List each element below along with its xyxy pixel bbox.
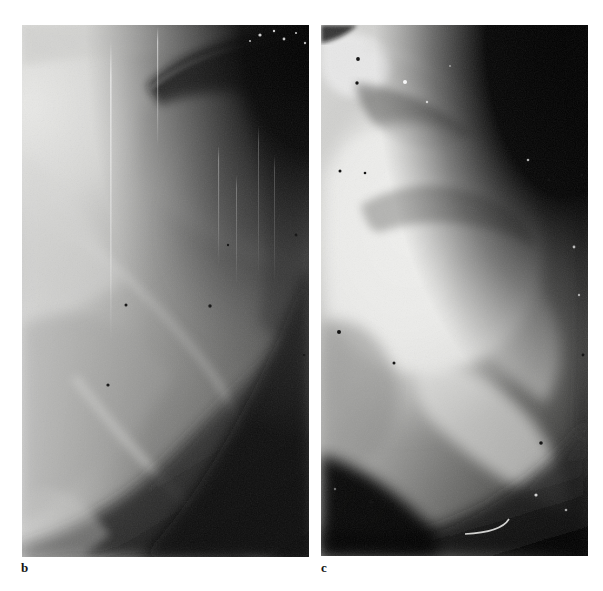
panel-label-c: c (321, 561, 327, 574)
radiograph-panel-c[interactable] (321, 25, 588, 556)
figure-root: b (0, 0, 603, 591)
radiograph-image-b (22, 25, 309, 557)
scratch-artifact (274, 155, 275, 285)
scratch-artifact (236, 175, 237, 285)
scratch-artifact (157, 27, 158, 147)
scratch-artifact (110, 41, 112, 341)
radiograph-panel-b[interactable] (22, 25, 309, 557)
scratch-artifact (258, 125, 259, 275)
radiograph-image-c (321, 25, 588, 556)
panel-label-b: b (21, 561, 28, 574)
scratch-artifact (218, 145, 219, 265)
